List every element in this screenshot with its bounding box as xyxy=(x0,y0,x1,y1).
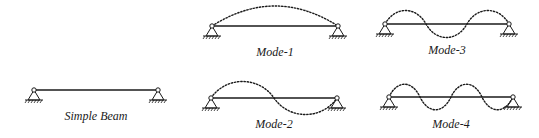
simple-beam-label: Simple Beam xyxy=(65,109,128,123)
mode-3-label: Mode-3 xyxy=(427,43,465,57)
mode-shape-curve xyxy=(212,6,338,26)
mode-2: Mode-2 xyxy=(202,82,346,132)
mode-4-label: Mode-4 xyxy=(431,117,469,131)
mode-2-label: Mode-2 xyxy=(254,117,292,131)
beam-modes-diagram: Simple Beam Mode-1 Mode-2 Mode-3 Mode-4 xyxy=(0,0,539,138)
simple-beam: Simple Beam xyxy=(25,88,167,123)
mode-4: Mode-4 xyxy=(380,84,522,131)
mode-3: Mode-3 xyxy=(376,11,518,58)
mode-1-label: Mode-1 xyxy=(255,45,293,59)
mode-1: Mode-1 xyxy=(203,6,347,59)
